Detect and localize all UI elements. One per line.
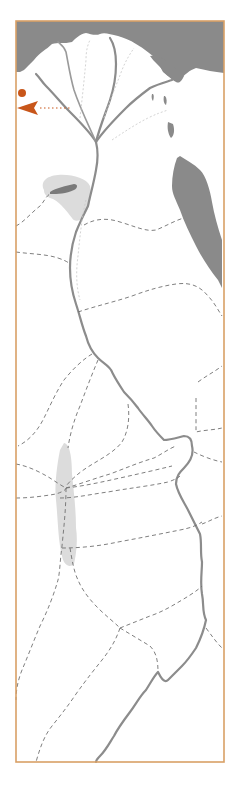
lake-small: [152, 94, 154, 101]
nile-river: [70, 142, 206, 762]
delta-rosetta-branch: [58, 42, 96, 142]
gulf: [172, 156, 222, 288]
sea-north: [16, 21, 224, 81]
delta-canal-1: [80, 40, 90, 118]
bitter-lakes: [168, 122, 174, 138]
delta-damietta-branch: [96, 38, 116, 142]
direction-arrow-left: [17, 101, 38, 115]
delta-east-branch: [96, 80, 172, 142]
oasis-south: [55, 443, 76, 566]
lake-timsah: [164, 96, 167, 105]
map: [0, 0, 239, 793]
location-dot: [18, 89, 26, 97]
desert-routes: [16, 194, 222, 762]
